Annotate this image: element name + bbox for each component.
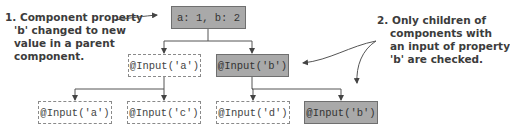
annotation-1: 1. Component property 'b' changed to new… [5, 11, 143, 63]
child-component-b-box: @Input('b') [216, 54, 289, 77]
root-component-label: a: 1, b: 2 [177, 12, 240, 24]
annotation-line: an input of property [377, 40, 510, 53]
annotation-line: 'b' changed to new [5, 24, 143, 37]
root-component-box: a: 1, b: 2 [171, 6, 246, 29]
grandchild-component-label: @Input('d') [218, 107, 287, 119]
grandchild-component-label: @Input('b') [306, 107, 375, 119]
grandchild-component-label: @Input('a') [40, 107, 109, 119]
grandchild-component-label: @Input('c') [129, 107, 198, 119]
annotation-line: value in a parent [5, 37, 143, 50]
grandchild-component-d-box: @Input('d') [216, 101, 290, 124]
grandchild-component-b-box: @Input('b') [304, 101, 378, 124]
annotation-line: 1. Component property [5, 11, 143, 24]
annotation-line: 2. Only children of [377, 14, 510, 27]
grandchild-component-c-box: @Input('c') [127, 101, 201, 124]
annotation-line: components with [377, 27, 510, 40]
annotation-line: component. [5, 50, 143, 63]
child-component-label: @Input('b') [218, 60, 287, 72]
annotation-line: 'b' are checked. [377, 53, 510, 66]
grandchild-component-a-box: @Input('a') [38, 101, 112, 124]
annotation-2: 2. Only children of components with an i… [377, 14, 510, 66]
